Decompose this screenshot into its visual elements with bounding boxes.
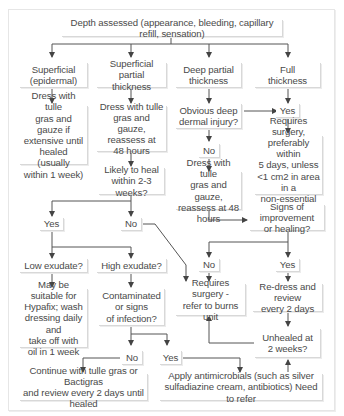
- contaminated-no: No: [122, 351, 143, 365]
- high-exudate: High exudate?: [97, 259, 167, 273]
- column-deep-partial: Deep partial thickness: [176, 63, 242, 88]
- column-full-thickness: Full thickness: [255, 63, 321, 88]
- signs-no: No: [199, 259, 220, 272]
- spt-yes: Yes: [40, 218, 64, 231]
- spt-no: No: [121, 218, 142, 231]
- contaminated-question: Contaminated or signs of infection?: [99, 289, 165, 326]
- apply-antimicrobials: Apply antimicrobials (such as silver sul…: [160, 374, 323, 401]
- refer-burns-unit: Requires surgery - refer to burns unit: [176, 284, 246, 316]
- signs-yes: Yes: [276, 259, 300, 272]
- low-exudate: Low exudate?: [20, 259, 88, 273]
- deep-dermal-no: No: [199, 144, 220, 158]
- signs-improvement-question: Signs of improvement or healing?: [250, 205, 325, 231]
- column-superficial-partial: Superficial partial thickness: [97, 63, 167, 88]
- spt-question: Likely to heal within 2-3 weeks?: [99, 168, 165, 195]
- requires-surgery-5-days: Requires surgery, preferably within 5 da…: [255, 136, 323, 195]
- redress-review: Re-dress and review every 2 days: [253, 284, 323, 312]
- deep-partial-action: Dress with tulle gras and gauze, reasses…: [176, 172, 242, 210]
- low-exudate-action: May be suitable for Hypafix; wash dressi…: [20, 289, 88, 348]
- column-superficial: Superficial (epidermal): [20, 63, 88, 88]
- spt-action: Dress with tulle gras and gauze, reasses…: [97, 106, 167, 152]
- contaminated-yes: Yes: [160, 351, 182, 365]
- continue-tulle-gras: Continue with tulle gras or Bactigras an…: [20, 374, 148, 401]
- superficial-action: Dress with tulle gras and gauze if exten…: [20, 106, 88, 165]
- unhealed-question: Unhealed at 2 weeks?: [255, 329, 321, 358]
- deep-dermal-question: Obvious deep dermal injury?: [176, 104, 242, 129]
- root-node: Depth assessed (appearance, bleeding, ca…: [62, 20, 283, 37]
